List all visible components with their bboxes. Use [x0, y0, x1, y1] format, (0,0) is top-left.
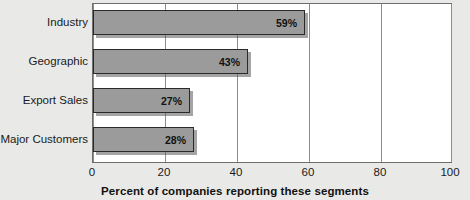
bar-major-customers: 28% — [93, 127, 194, 152]
xtick-label-20: 20 — [144, 167, 184, 179]
category-label-geographic: Geographic — [0, 56, 88, 68]
bar-value-label: 59% — [276, 17, 297, 28]
xtick-label-0: 0 — [72, 167, 112, 179]
bar-industry: 59% — [93, 10, 305, 35]
gridline-100 — [451, 4, 452, 162]
xtick-label-100: 100 — [430, 167, 470, 179]
category-label-industry: Industry — [0, 17, 88, 29]
bar-value-label: 43% — [219, 56, 240, 67]
plot-area: 59% 43% 27% 28% — [92, 3, 452, 163]
bar-chart: 59% 43% 27% 28% Industry Geographic Expo… — [0, 0, 470, 200]
bar-export-sales: 27% — [93, 88, 190, 113]
category-label-major-customers: Major Customers — [0, 134, 88, 146]
xtick-label-60: 60 — [288, 167, 328, 179]
gridline-80 — [381, 4, 382, 162]
xtick-label-80: 80 — [360, 167, 400, 179]
bar-value-label: 28% — [165, 134, 186, 145]
xtick-label-40: 40 — [216, 167, 256, 179]
bar-geographic: 43% — [93, 49, 248, 74]
gridline-60 — [309, 4, 310, 162]
x-axis-title: Percent of companies reporting these seg… — [0, 185, 470, 198]
bar-value-label: 27% — [161, 95, 182, 106]
category-label-export-sales: Export Sales — [0, 95, 88, 107]
